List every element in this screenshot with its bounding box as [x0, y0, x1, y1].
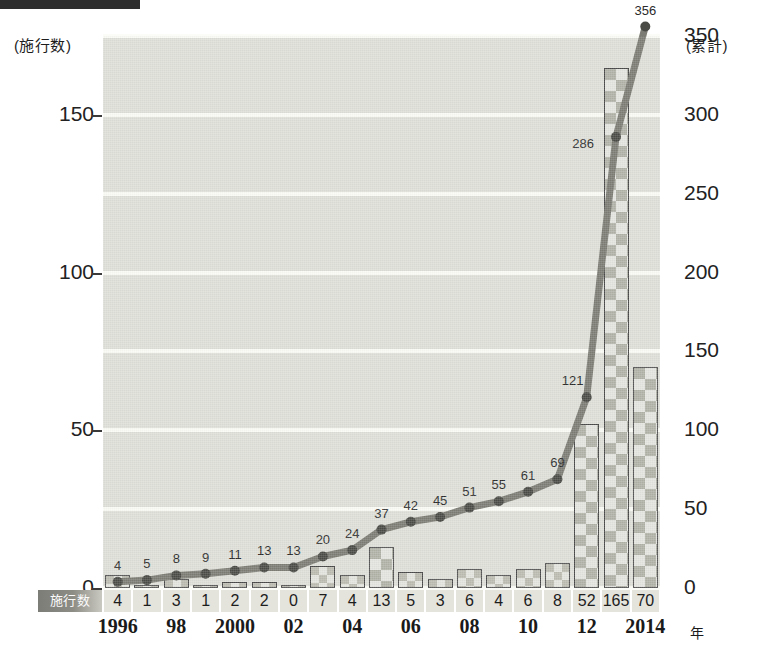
- line-point-label: 286: [572, 135, 594, 150]
- line-point-label: 24: [345, 526, 359, 541]
- line-marker: [230, 566, 240, 576]
- data-strip-cell: 6: [514, 590, 541, 612]
- data-strip-cell: 3: [163, 590, 190, 612]
- data-strip-cell: 1: [133, 590, 160, 612]
- data-strip-cell: 13: [368, 590, 395, 612]
- x-axis-year-label: 02: [284, 615, 304, 638]
- line-point-label: 356: [634, 3, 656, 18]
- data-strip-cell: 6: [456, 590, 483, 612]
- x-axis-year-label: 06: [401, 615, 421, 638]
- x-axis-unit-label: 年: [690, 622, 704, 642]
- right-axis-tick-label: 150: [684, 338, 719, 362]
- x-axis-year-label: 2014: [625, 615, 665, 638]
- line-marker: [435, 512, 445, 522]
- data-strip-cell: 1: [192, 590, 219, 612]
- data-strip-cell: 8: [544, 590, 571, 612]
- line-marker: [377, 525, 387, 535]
- chart-plot-area: 4589111313202437424551556169121286356: [103, 36, 660, 588]
- data-strip-label: 施行数: [38, 590, 102, 612]
- line-marker: [464, 503, 474, 513]
- data-strip-cell: 2: [251, 590, 278, 612]
- line-point-label: 121: [562, 373, 584, 388]
- data-strip-cell: 5: [397, 590, 424, 612]
- line-marker: [406, 517, 416, 527]
- line-point-label: 20: [316, 532, 330, 547]
- line-marker: [113, 577, 123, 587]
- x-axis-year-label: 2000: [215, 615, 255, 638]
- line-marker: [142, 575, 152, 585]
- x-axis-year-label: 12: [577, 615, 597, 638]
- line-point-label: 5: [143, 556, 150, 571]
- right-axis-tick-label: 200: [684, 260, 719, 284]
- left-axis-tick-mark: [92, 430, 102, 432]
- left-axis-tick-label: 100: [8, 260, 94, 284]
- data-strip-cell: 70: [632, 590, 659, 612]
- line-point-label: 13: [257, 543, 271, 558]
- line-marker: [552, 474, 562, 484]
- left-axis-tick-label: 50: [8, 417, 94, 441]
- line-point-label: 4: [114, 558, 121, 573]
- line-point-label: 9: [202, 550, 209, 565]
- line-marker: [494, 496, 504, 506]
- data-strip-cell: 2: [221, 590, 248, 612]
- data-strip-cell: 52: [573, 590, 600, 612]
- x-axis-year-label: 1996: [98, 615, 138, 638]
- right-axis-tick-label: 350: [684, 23, 719, 47]
- line-point-label: 11: [228, 547, 242, 562]
- left-axis-tick-mark: [92, 115, 102, 117]
- line-marker: [259, 563, 269, 573]
- cumulative-line: [118, 27, 646, 582]
- data-strip-cell: 4: [104, 590, 131, 612]
- line-marker: [289, 563, 299, 573]
- line-point-label: 13: [286, 543, 300, 558]
- x-axis-year-label: 98: [166, 615, 186, 638]
- line-marker: [347, 545, 357, 555]
- line-marker: [582, 392, 592, 402]
- line-point-label: 61: [521, 468, 535, 483]
- line-marker: [171, 570, 181, 580]
- x-axis-year-label: 10: [518, 615, 538, 638]
- data-strip: 施行数 413122074135364685216570: [0, 590, 758, 614]
- left-axis-tick-label: 150: [8, 102, 94, 126]
- data-strip-cell: 165: [602, 590, 629, 612]
- data-strip-cell: 7: [309, 590, 336, 612]
- line-point-label: 37: [374, 506, 388, 521]
- x-axis-year-label: 04: [342, 615, 362, 638]
- data-strip-cell: 3: [426, 590, 453, 612]
- right-axis-tick-label: 250: [684, 181, 719, 205]
- right-axis-tick-label: 50: [684, 496, 707, 520]
- line-point-label: 8: [173, 551, 180, 566]
- x-axis-year-label: 08: [459, 615, 479, 638]
- line-point-label: 42: [404, 498, 418, 513]
- data-strip-cell: 0: [280, 590, 307, 612]
- line-point-label: 69: [550, 455, 564, 470]
- line-marker: [611, 132, 621, 142]
- left-axis-caption: (施行数): [14, 34, 72, 55]
- line-point-label: 55: [492, 477, 506, 492]
- right-axis-tick-label: 300: [684, 102, 719, 126]
- data-strip-cell: 4: [339, 590, 366, 612]
- line-marker: [640, 22, 650, 32]
- line-marker: [318, 552, 328, 562]
- line-point-label: 51: [462, 484, 476, 499]
- line-marker: [523, 487, 533, 497]
- data-strip-cell: 4: [485, 590, 512, 612]
- left-axis-tick-mark: [92, 273, 102, 275]
- page-crop-bar: [0, 0, 140, 9]
- line-marker: [201, 569, 211, 579]
- right-axis-tick-label: 100: [684, 417, 719, 441]
- line-point-label: 45: [433, 493, 447, 508]
